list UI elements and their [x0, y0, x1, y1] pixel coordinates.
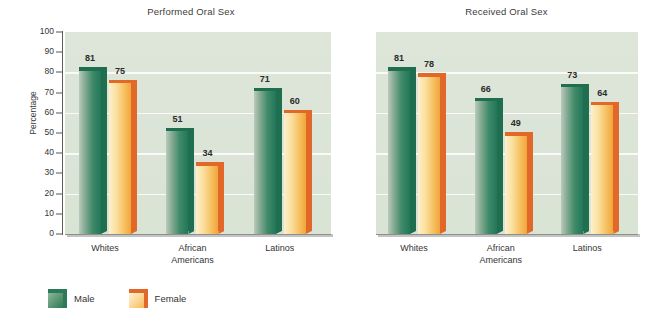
x-axis-line-right: [376, 234, 638, 235]
bar-female-whites: 78: [418, 76, 440, 234]
bar-top: [475, 98, 497, 102]
bar-side: [613, 102, 619, 231]
y-axis-tick-label: 100: [40, 26, 54, 37]
y-axis-tick: 100: [26, 32, 62, 33]
bar-top: [254, 88, 276, 92]
bar-value-label: 81: [85, 53, 95, 63]
x-axis-label: African Americans: [456, 242, 546, 266]
bar-top: [418, 73, 440, 77]
bar-value-label: 34: [202, 148, 212, 158]
bar-value-label: 75: [115, 66, 125, 76]
bar-top: [388, 67, 410, 71]
bar-male-whites: 81: [79, 70, 101, 234]
bar-side: [218, 162, 224, 231]
legend-cube-ltopw: [144, 289, 148, 293]
bar-side: [440, 73, 446, 231]
y-axis-tick: 10: [26, 213, 62, 214]
y-axis-tick: 0: [26, 234, 62, 235]
x-axis-label: Whites: [60, 242, 150, 254]
bar-value-label: 71: [260, 74, 270, 84]
bar-face: [284, 113, 306, 234]
y-axis-tick: 80: [26, 72, 62, 73]
legend-label: Female: [155, 293, 187, 304]
y-axis-tick: 70: [26, 92, 62, 93]
chart-panel-performed: Performed Oral Sex Percentage 1009080706…: [0, 0, 340, 275]
legend-cube-ltop: [129, 289, 144, 293]
legend-cube-ltop: [48, 289, 63, 293]
y-axis-tick: 20: [26, 193, 62, 194]
bar-top: [79, 67, 101, 71]
y-axis-tick-label: 90: [45, 46, 54, 57]
bar-value-label: 60: [290, 96, 300, 106]
plot-area-right: 817866497364: [376, 32, 638, 234]
bar-side: [188, 128, 194, 231]
chart-title-left: Performed Oral Sex: [0, 6, 340, 17]
y-axis-tick-label: 80: [45, 66, 54, 77]
bar-side: [276, 88, 282, 231]
x-axis-label: African Americans: [147, 242, 237, 266]
bar-value-label: 73: [567, 70, 577, 80]
legend-label: Male: [74, 293, 95, 304]
legend-item-male[interactable]: Male: [48, 289, 95, 308]
bar-male-latinos: 71: [254, 91, 276, 234]
bar-top: [505, 132, 527, 136]
x-axis-label: Latinos: [542, 242, 632, 254]
y-axis-tick-label: 50: [45, 127, 54, 138]
bar-value-label: 64: [597, 88, 607, 98]
bar-side: [527, 132, 533, 231]
bar-face: [418, 76, 440, 234]
y-axis-tick: 50: [26, 133, 62, 134]
bar-top: [196, 162, 218, 166]
bar-value-label: 51: [172, 114, 182, 124]
bar-top: [591, 102, 613, 106]
y-axis-tick-label: 0: [49, 228, 54, 239]
y-axis-tick-label: 30: [45, 167, 54, 178]
legend-cube-lside: [144, 293, 148, 308]
y-axis-tick: 40: [26, 153, 62, 154]
bar-value-label: 66: [481, 84, 491, 94]
bar-face: [475, 101, 497, 234]
bar-male-whites: 81: [388, 70, 410, 234]
bar-face: [196, 165, 218, 234]
bar-face: [109, 83, 131, 235]
y-axis-tick-label: 40: [45, 147, 54, 158]
bar-side: [131, 80, 137, 232]
chart-panel-received: Received Oral Sex 817866497364 WhitesAfr…: [340, 0, 655, 275]
chart-legend: MaleFemale: [48, 284, 186, 312]
legend-cube-lside: [63, 293, 67, 308]
x-axis-line-left: [65, 234, 331, 235]
y-axis-tick: 30: [26, 173, 62, 174]
y-axis-tick-label: 60: [45, 106, 54, 117]
y-axis-tick: 60: [26, 112, 62, 113]
legend-swatch-female-icon: [129, 289, 148, 308]
bar-female-latinos: 60: [284, 113, 306, 234]
bar-side: [497, 98, 503, 231]
legend-cube-ltopw: [63, 289, 67, 293]
bar-male-latinos: 73: [561, 87, 583, 234]
bar-female-african-americans: 34: [196, 165, 218, 234]
bar-value-label: 49: [511, 118, 521, 128]
bar-top: [109, 80, 131, 84]
bar-female-whites: 75: [109, 83, 131, 235]
bar-value-label: 78: [424, 59, 434, 69]
bar-face: [561, 87, 583, 234]
bar-top: [561, 84, 583, 88]
x-axis-label: Latinos: [235, 242, 325, 254]
legend-cube-lface: [48, 293, 63, 308]
y-axis-line: [62, 31, 63, 235]
y-axis-tick: 90: [26, 52, 62, 53]
y-axis-tick-label: 70: [45, 86, 54, 97]
bar-female-latinos: 64: [591, 105, 613, 234]
bar-value-label: 81: [394, 53, 404, 63]
bar-face: [591, 105, 613, 234]
bar-side: [306, 110, 312, 231]
bar-face: [166, 131, 188, 234]
legend-item-female[interactable]: Female: [129, 289, 187, 308]
y-axis-ticks: 1009080706050403020100: [26, 32, 62, 234]
legend-swatch-male-icon: [48, 289, 67, 308]
x-axis-label: Whites: [369, 242, 459, 254]
bar-male-african-americans: 51: [166, 131, 188, 234]
legend-cube-lface: [129, 293, 144, 308]
bar-female-african-americans: 49: [505, 135, 527, 234]
bar-side: [101, 67, 107, 231]
